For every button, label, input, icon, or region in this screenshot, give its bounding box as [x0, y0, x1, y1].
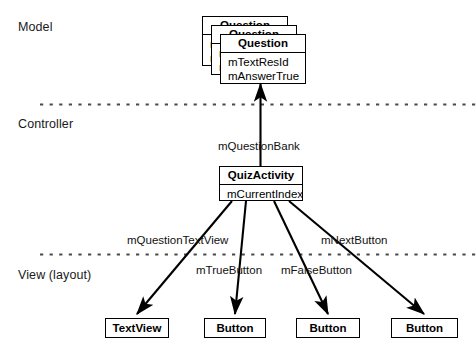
- edge-quizactivity-to-false-button: [274, 201, 328, 314]
- question-card-title: Question: [221, 35, 305, 53]
- widget-false-button: Button: [296, 318, 360, 338]
- question-attr-textresid: mTextResId: [228, 55, 305, 69]
- edge-label-mquestionbank: mQuestionBank: [218, 140, 300, 152]
- quizactivity-card-title: QuizActivity: [220, 167, 302, 185]
- edge-label-mquestiontextview: mQuestionTextView: [127, 234, 228, 246]
- edge-label-mtruebutton: mTrueButton: [196, 264, 262, 276]
- edge-quizactivity-to-next-button: [289, 201, 424, 314]
- edge-label-mnextbutton: mNextButton: [321, 234, 387, 246]
- widget-textview: TextView: [105, 318, 169, 338]
- quizactivity-attr-mcurrentindex: mCurrentIndex: [227, 187, 302, 201]
- mvc-diagram-canvas: Model Controller View (layout) Question …: [0, 0, 476, 347]
- question-card-attrs: mTextResId mAnswerTrue: [221, 53, 305, 86]
- tier-label-controller: Controller: [18, 117, 73, 131]
- tier-label-model: Model: [18, 20, 53, 34]
- quizactivity-card-attrs: mCurrentIndex: [220, 185, 302, 204]
- question-card-front: Question mTextResId mAnswerTrue: [220, 34, 306, 84]
- question-attr-answertrue: mAnswerTrue: [228, 69, 305, 83]
- widget-next-button: Button: [391, 318, 458, 338]
- tier-label-view: View (layout): [18, 268, 91, 282]
- edge-label-mfalsebutton: mFalseButton: [281, 264, 352, 276]
- edge-quizactivity-to-true-button: [235, 201, 246, 314]
- widget-true-button: Button: [204, 318, 266, 338]
- edge-quizactivity-to-textview: [137, 201, 232, 314]
- quizactivity-card: QuizActivity mCurrentIndex: [219, 166, 303, 201]
